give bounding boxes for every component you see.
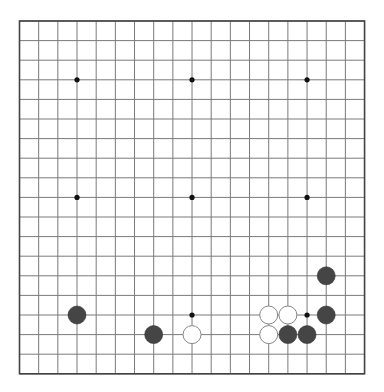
go-board[interactable] xyxy=(0,0,384,392)
star-point-icon xyxy=(189,77,194,82)
go-board-canvas[interactable] xyxy=(0,0,384,392)
stones xyxy=(68,267,335,344)
black-stone xyxy=(317,267,335,285)
black-stone xyxy=(145,326,163,344)
black-stone xyxy=(298,326,316,344)
white-stone xyxy=(183,326,201,344)
star-point-icon xyxy=(304,312,309,317)
white-stone xyxy=(260,306,278,324)
white-stone xyxy=(279,306,297,324)
star-point-icon xyxy=(74,195,79,200)
black-stone xyxy=(317,306,335,324)
star-point-icon xyxy=(189,312,194,317)
black-stone xyxy=(68,306,86,324)
star-point-icon xyxy=(304,195,309,200)
star-point-icon xyxy=(304,77,309,82)
black-stone xyxy=(279,326,297,344)
white-stone xyxy=(260,326,278,344)
star-point-icon xyxy=(189,195,194,200)
star-point-icon xyxy=(74,77,79,82)
